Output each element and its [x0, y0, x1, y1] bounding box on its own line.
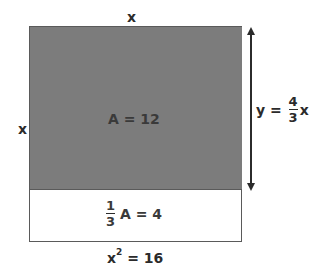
top-side-label: x	[127, 10, 136, 24]
height-arrow-line	[250, 31, 252, 186]
shaded-area-label: A = 12	[108, 112, 160, 126]
four-thirds-fraction: 4 3	[289, 95, 298, 124]
one-third-fraction: 1 3	[106, 199, 115, 228]
shaded-region	[30, 27, 242, 190]
left-side-label: x	[18, 122, 27, 136]
total-area-label: x2 = 16	[107, 250, 163, 265]
arrow-down-icon	[247, 183, 255, 191]
height-equation-label: y = 4 3 x	[256, 95, 309, 124]
unshaded-area-label: 1 3 A = 4	[104, 199, 162, 228]
arrow-up-icon	[247, 27, 255, 35]
